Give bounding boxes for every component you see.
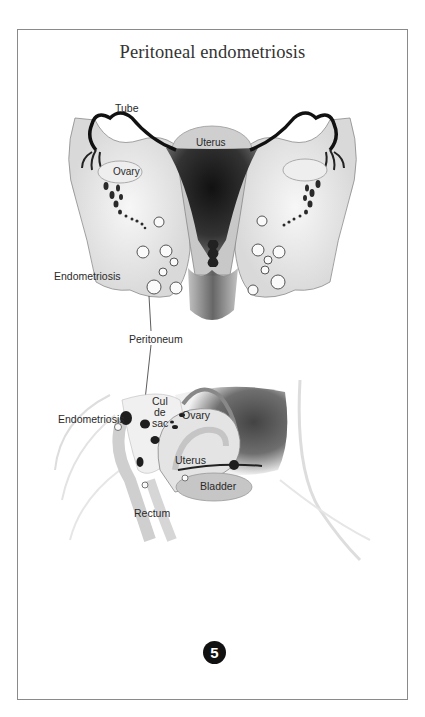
label-ovary-lower: Ovary — [182, 410, 210, 421]
label-endometriosis-upper: Endometriosis — [54, 271, 121, 282]
label-tube: Tube — [115, 103, 139, 114]
label-cul-de-sac-3: sac — [152, 418, 168, 429]
figure-number-badge: 5 — [203, 641, 226, 664]
label-peritoneum: Peritoneum — [129, 334, 183, 345]
label-uterus-upper: Uterus — [196, 138, 225, 148]
label-cul-de-sac-2: de — [154, 407, 166, 418]
label-endometriosis-lower: Endometriosis — [58, 414, 125, 425]
anatomy-illustration — [0, 0, 425, 717]
label-bladder: Bladder — [200, 481, 236, 492]
upper-uterus-figure — [69, 113, 357, 400]
label-cul-de-sac-1: Cul — [152, 396, 168, 407]
label-rectum: Rectum — [134, 508, 170, 519]
label-ovary-upper: Ovary — [113, 167, 140, 177]
lower-sagittal-figure — [55, 380, 370, 560]
figure-title: Peritoneal endometriosis — [0, 42, 425, 63]
label-uterus-lower: Uterus — [175, 455, 206, 466]
